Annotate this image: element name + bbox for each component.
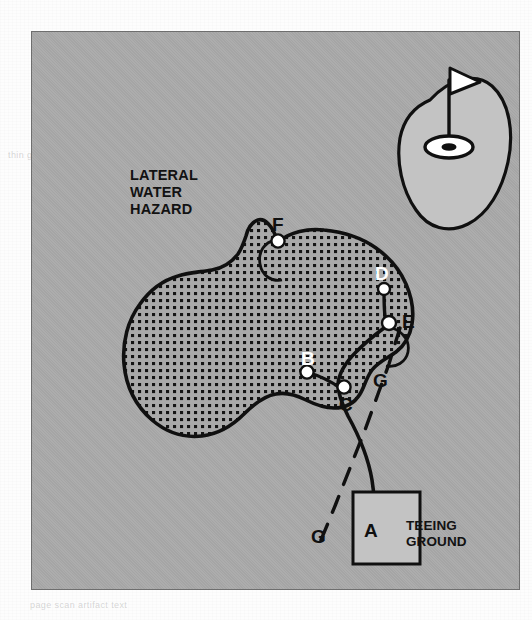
teeing-ground-label: TEEING GROUND — [406, 518, 467, 550]
hole-center-icon — [442, 143, 457, 151]
ball-marker-d — [378, 283, 390, 295]
diagram-panel: A B C D E F G G LATERAL WATER HAZARD TEE… — [31, 31, 520, 590]
ghost-text-bottom: page scan artifact text — [30, 600, 127, 610]
point-label-a: A — [364, 521, 378, 540]
point-label-b: B — [301, 349, 315, 368]
point-label-e: E — [402, 312, 415, 331]
lateral-water-hazard-label: LATERAL WATER HAZARD — [130, 167, 198, 218]
point-label-g-upper: G — [373, 371, 388, 390]
ball-marker-f — [271, 234, 284, 247]
point-label-c: C — [339, 395, 353, 414]
point-label-d: D — [375, 264, 389, 283]
figure-page: thin ghost line of text showing through … — [0, 0, 532, 620]
point-label-f: F — [272, 215, 284, 234]
putting-green — [399, 68, 511, 229]
ball-marker-e — [382, 316, 396, 330]
golf-hole-diagram — [32, 32, 520, 590]
point-label-g-lower: G — [311, 527, 326, 546]
ball-marker-c — [337, 380, 350, 393]
